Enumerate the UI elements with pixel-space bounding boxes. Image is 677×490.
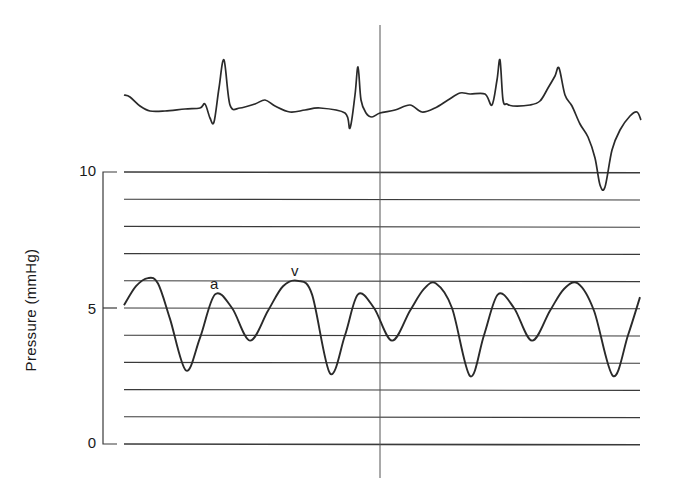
grid-line bbox=[124, 172, 640, 173]
y-tick-5: 5 bbox=[66, 300, 96, 317]
grid-line bbox=[124, 226, 640, 227]
grid-line bbox=[124, 444, 640, 445]
grid-line bbox=[124, 308, 640, 309]
y-axis-bracket bbox=[103, 172, 117, 444]
y-tick-0: 0 bbox=[66, 434, 96, 451]
a-wave-label: a bbox=[210, 275, 218, 292]
pressure-grid-lines bbox=[124, 172, 640, 445]
grid-line bbox=[124, 254, 640, 255]
grid-line bbox=[124, 199, 640, 200]
y-axis-label: Pressure (mmHg) bbox=[22, 249, 39, 372]
v-wave-label: v bbox=[291, 262, 299, 279]
pressure-ecg-chart bbox=[0, 0, 677, 490]
grid-line bbox=[124, 281, 640, 282]
ecg-trace bbox=[124, 60, 641, 191]
grid-line bbox=[124, 362, 640, 363]
y-tick-10: 10 bbox=[66, 162, 96, 179]
grid-line bbox=[124, 390, 640, 391]
grid-line bbox=[124, 417, 640, 418]
pressure-trace bbox=[124, 278, 640, 377]
